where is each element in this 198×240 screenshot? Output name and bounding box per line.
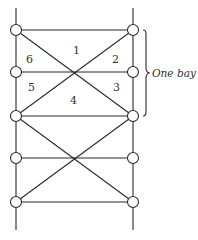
joint-node xyxy=(128,153,139,164)
region-label-5: 5 xyxy=(28,81,35,94)
joint-node xyxy=(128,25,139,36)
region-label-1: 1 xyxy=(73,44,80,57)
joint-node xyxy=(11,67,22,78)
region-label-6: 6 xyxy=(26,53,33,66)
joint-node xyxy=(11,111,22,122)
region-label-2: 2 xyxy=(112,53,119,66)
joint-node xyxy=(128,111,139,122)
joint-node xyxy=(11,25,22,36)
joint-node xyxy=(128,197,139,208)
joint-node xyxy=(11,153,22,164)
region-label-3: 3 xyxy=(113,81,120,94)
truss-diagram: 1 2 3 4 5 6 One bay xyxy=(0,0,198,240)
joint-node xyxy=(11,197,22,208)
joint-node xyxy=(128,67,139,78)
bay-annotation: One bay xyxy=(152,67,197,79)
bay-brace xyxy=(143,30,149,116)
region-label-4: 4 xyxy=(70,94,77,107)
